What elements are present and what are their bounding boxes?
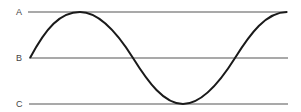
label-a: A xyxy=(16,7,22,17)
sine-wave-diagram: A B C xyxy=(0,0,301,112)
label-b: B xyxy=(16,53,22,63)
label-c: C xyxy=(16,99,23,109)
